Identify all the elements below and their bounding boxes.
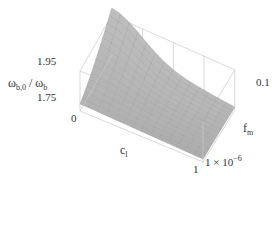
z-label-omega-den: ω bbox=[35, 76, 43, 90]
y-tick-1e-6-exponent: −6 bbox=[233, 154, 242, 163]
y-axis-label: fm bbox=[243, 122, 253, 134]
z-label-separator: / bbox=[26, 76, 35, 90]
y-tick-0-1: 0.1 bbox=[256, 77, 270, 88]
x-tick-0: 0 bbox=[71, 113, 77, 124]
z-label-den-subscript: b bbox=[43, 83, 47, 92]
z-tick-1-95: 1.95 bbox=[37, 56, 56, 67]
x-tick-1: 1 bbox=[193, 164, 199, 175]
y-tick-1e-6-base: 1 × 10 bbox=[205, 156, 233, 168]
z-axis-label: ωb,0 / ωb bbox=[8, 77, 47, 89]
y-label-subscript: m bbox=[247, 128, 253, 137]
z-label-num-subscript: b,0 bbox=[16, 83, 26, 92]
z-tick-1-75: 1.75 bbox=[37, 92, 56, 103]
x-label-subscript: l bbox=[125, 150, 127, 159]
z-label-omega-num: ω bbox=[8, 76, 16, 90]
y-tick-1e-6: 1 × 10−6 bbox=[205, 157, 242, 168]
x-axis-label: cl bbox=[120, 144, 128, 156]
